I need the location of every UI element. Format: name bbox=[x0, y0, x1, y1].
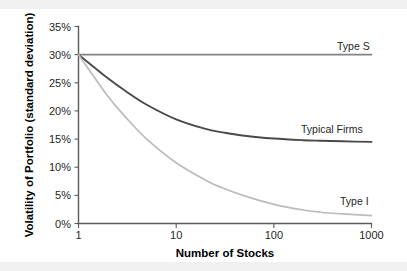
y-tick-label-20: 20% bbox=[49, 105, 71, 117]
series-label-typical-firms: Typical Firms bbox=[301, 123, 363, 135]
x-tick-label-100: 100 bbox=[265, 229, 283, 241]
y-axis-title: Volatility of Portfolio (standard deviat… bbox=[23, 12, 35, 237]
y-tick-label-25: 25% bbox=[49, 77, 71, 89]
x-tick-label-10: 10 bbox=[170, 229, 182, 241]
x-axis-title: Number of Stocks bbox=[176, 247, 274, 259]
series-line-type-i bbox=[79, 55, 372, 216]
y-tick-label-15: 15% bbox=[49, 133, 71, 145]
series-label-type-i: Type I bbox=[340, 195, 369, 207]
x-tick-label-1000: 1000 bbox=[359, 229, 383, 241]
y-tick-label-0: 0% bbox=[55, 218, 71, 230]
y-tick-label-30: 30% bbox=[49, 49, 71, 61]
y-tick-label-5: 5% bbox=[55, 189, 71, 201]
chart-figure: 35% 30% 25% 20% 15% 10% 5% 0% 1 10 100 1… bbox=[0, 0, 407, 271]
y-tick-labels: 35% 30% 25% 20% 15% 10% 5% 0% bbox=[49, 21, 71, 230]
x-tick-labels: 1 10 100 1000 bbox=[75, 229, 383, 241]
volatility-vs-stocks-chart: 35% 30% 25% 20% 15% 10% 5% 0% 1 10 100 1… bbox=[0, 0, 407, 271]
y-tick-label-10: 10% bbox=[49, 161, 71, 173]
x-tick-label-1: 1 bbox=[75, 229, 81, 241]
series-curves bbox=[79, 55, 372, 216]
y-tick-label-35: 35% bbox=[49, 21, 71, 33]
series-label-type-s: Type S bbox=[337, 40, 370, 52]
